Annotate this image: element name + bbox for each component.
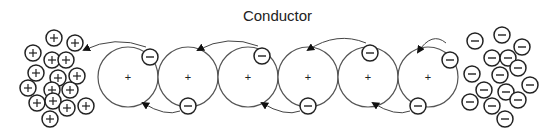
positive-charge-14	[59, 100, 75, 116]
positive-charge-2	[67, 35, 83, 51]
negative-charge-4	[484, 50, 500, 66]
atom-plus-sign: +	[305, 71, 311, 83]
electron-5	[362, 45, 378, 61]
negative-charge-13	[484, 98, 500, 114]
negative-charge-6	[464, 66, 480, 82]
negative-charge-1	[467, 33, 483, 49]
negative-charge-14	[510, 92, 526, 108]
atom-plus-sign: +	[125, 71, 131, 83]
positive-charge-15	[78, 98, 94, 114]
negative-charge-11	[522, 77, 538, 93]
electron-1	[142, 49, 158, 65]
positive-charge-3	[25, 45, 41, 61]
conductor-diagram: ++++++	[0, 0, 555, 136]
positive-charge-6	[28, 65, 44, 81]
negative-charge-16	[442, 52, 458, 68]
positive-charge-cluster	[20, 30, 94, 127]
electron-4	[300, 98, 316, 114]
negative-charge-2	[494, 27, 510, 43]
negative-charge-15	[497, 111, 513, 127]
positive-charge-9	[20, 80, 36, 96]
electron-2	[180, 98, 196, 114]
electron-6	[410, 98, 426, 114]
positive-charge-5	[58, 52, 74, 68]
negative-charge-3	[514, 39, 530, 55]
arrow-bottom-1	[143, 103, 180, 113]
positive-charge-11	[62, 82, 78, 98]
atom-plus-sign: +	[185, 71, 191, 83]
negative-charge-8	[510, 60, 526, 76]
arrow-bottom-2	[262, 103, 300, 113]
negative-charge-7	[492, 67, 508, 83]
atom-plus-sign: +	[245, 71, 251, 83]
positive-charge-16	[42, 111, 58, 127]
atom-plus-sign: +	[425, 71, 431, 83]
positive-charge-12	[29, 95, 45, 111]
negative-charge-12	[462, 94, 478, 110]
negative-charge-9	[476, 82, 492, 98]
atom-plus-sign: +	[365, 71, 371, 83]
positive-charge-1	[46, 30, 62, 46]
electron-3	[254, 48, 270, 64]
